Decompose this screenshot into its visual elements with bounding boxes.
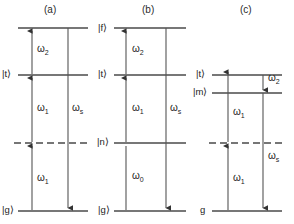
omega-label-a-omega1-mid: ω1 (37, 102, 49, 115)
omega-label-b-omega1: ω1 (132, 102, 144, 115)
state-label-a-t: |t⟩ (2, 68, 11, 79)
panel-label-b: (b) (142, 4, 154, 15)
omega-label-c-omega1-mid: ω1 (233, 106, 245, 119)
energy-level-diagram-figure: (a) (b) (c) |t⟩ |g⟩ ω2 ω1 ω1 ωs |f⟩ |t⟩ … (0, 0, 294, 224)
omega-label-b-omega0: ω0 (132, 170, 144, 183)
state-label-a-g: |g⟩ (2, 204, 14, 215)
omega-label-b-omegas: ωs (170, 102, 181, 115)
omega-subscript: 2 (140, 49, 144, 56)
omega-glyph: ω (37, 43, 45, 54)
state-label-b-g: |g⟩ (98, 204, 110, 215)
state-label-b-n: |n⟩ (97, 136, 109, 147)
omega-subscript: 1 (241, 112, 245, 119)
state-label-b-t: |t⟩ (98, 68, 107, 79)
omega-subscript: 1 (241, 178, 245, 185)
omega-glyph: ω (37, 172, 45, 183)
panel-label-c: (c) (240, 4, 252, 15)
omega-subscript: 2 (276, 78, 280, 85)
omega-label-c-omegas: ωs (268, 150, 279, 163)
omega-subscript: 1 (45, 108, 49, 115)
omega-glyph: ω (170, 102, 178, 113)
state-label-c-g: g (200, 204, 205, 215)
omega-glyph: ω (72, 102, 80, 113)
state-label-c-t: |t⟩ (196, 68, 205, 79)
omega-glyph: ω (268, 150, 276, 161)
state-label-b-f: |f⟩ (98, 22, 107, 33)
omega-glyph: ω (268, 72, 276, 83)
omega-glyph: ω (132, 170, 140, 181)
panel-label-a: (a) (44, 4, 56, 15)
omega-subscript: s (178, 108, 182, 115)
omega-glyph: ω (37, 102, 45, 113)
omega-subscript: s (276, 156, 280, 163)
omega-label-b-omega2: ω2 (132, 43, 144, 56)
state-label-c-m: |m⟩ (193, 86, 207, 97)
omega-label-a-omegas: ωs (72, 102, 83, 115)
omega-label-a-omega2: ω2 (37, 43, 49, 56)
omega-subscript: 2 (45, 49, 49, 56)
omega-label-a-omega1-low: ω1 (37, 172, 49, 185)
panel-c-levels (209, 75, 284, 211)
panel-a-levels (14, 28, 90, 211)
omega-subscript: 0 (140, 176, 144, 183)
omega-subscript: s (80, 108, 84, 115)
omega-glyph: ω (132, 43, 140, 54)
omega-glyph: ω (132, 102, 140, 113)
omega-label-c-omega2: ω2 (268, 72, 280, 85)
omega-subscript: 1 (45, 178, 49, 185)
omega-label-c-omega1-low: ω1 (233, 172, 245, 185)
omega-glyph: ω (233, 172, 241, 183)
omega-subscript: 1 (140, 108, 144, 115)
omega-glyph: ω (233, 106, 241, 117)
panel-b-levels (114, 28, 186, 211)
